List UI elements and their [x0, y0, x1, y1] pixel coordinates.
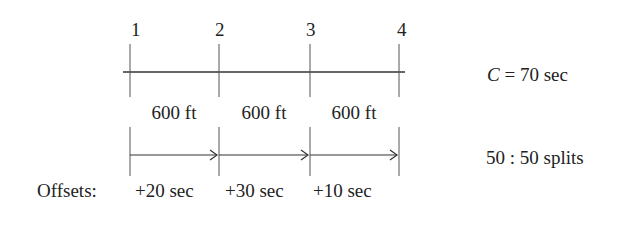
splits-label: 50 : 50 splits	[486, 148, 584, 167]
offset-value-2: +30 sec	[225, 181, 284, 200]
intersection-label-4: 4	[397, 20, 407, 39]
offsets-label: Offsets:	[37, 181, 97, 200]
cycle-symbol: C	[487, 64, 500, 85]
cycle-value: = 70 sec	[500, 64, 568, 85]
arrow-icon	[310, 150, 397, 160]
segment-distance-1: 600 ft	[152, 103, 197, 122]
arrow-icon	[130, 150, 217, 160]
segment-distance-2: 600 ft	[242, 103, 287, 122]
intersection-label-2: 2	[215, 20, 225, 39]
offset-value-1: +20 sec	[135, 181, 194, 200]
intersection-label-1: 1	[131, 20, 141, 39]
cycle-length: C = 70 sec	[487, 65, 568, 84]
segment-distance-3: 600 ft	[332, 103, 377, 122]
offset-value-3: +10 sec	[313, 181, 372, 200]
arrow-icon	[219, 150, 308, 160]
intersection-label-3: 3	[306, 20, 316, 39]
